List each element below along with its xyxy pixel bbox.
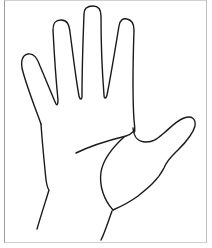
wrist-left xyxy=(37,124,49,229)
thenar-line xyxy=(101,137,124,210)
palm-crease xyxy=(76,131,134,153)
wrist-right xyxy=(101,211,112,240)
hand-outline xyxy=(22,6,135,132)
thumb-outline xyxy=(113,117,195,210)
hand-drawing xyxy=(0,0,212,248)
